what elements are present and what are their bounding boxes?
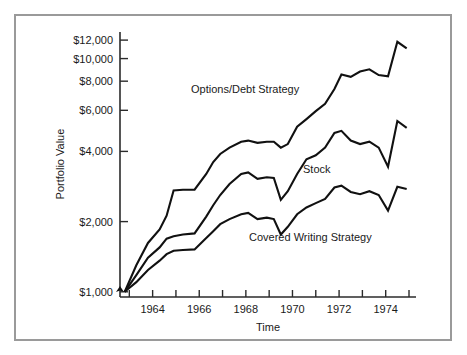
y-tick-label: $8,000 xyxy=(79,75,113,87)
figure-frame: $1,000$2,000$4,000$6,000$8,000$10,000$12… xyxy=(14,14,452,341)
y-tick-label: $6,000 xyxy=(79,104,113,116)
y-tick-label: $4,000 xyxy=(79,145,113,157)
x-tick-label: 1970 xyxy=(280,303,304,315)
series-label-options-debt: Options/Debt Strategy xyxy=(191,83,300,95)
y-tick-label: $12,000 xyxy=(73,34,113,46)
x-tick-label: 1972 xyxy=(327,303,351,315)
y-tick-label: $10,000 xyxy=(73,53,113,65)
x-axis-tick-labels: 196419661968197019721974 xyxy=(140,303,398,315)
data-series-line-1 xyxy=(125,121,407,292)
y-axis-title: Portfolio Value xyxy=(54,129,66,200)
y-tick-label: $1,000 xyxy=(79,286,113,298)
data-series-group xyxy=(125,42,407,292)
x-tick-label: 1966 xyxy=(187,303,211,315)
y-tick-label: $2,000 xyxy=(79,216,113,228)
y-axis-ticks xyxy=(120,40,128,292)
y-axis-tick-labels: $1,000$2,000$4,000$6,000$8,000$10,000$12… xyxy=(73,34,113,298)
x-tick-label: 1968 xyxy=(234,303,258,315)
series-label-stock: Stock xyxy=(303,163,331,175)
x-tick-label: 1974 xyxy=(373,303,397,315)
portfolio-value-line-chart: $1,000$2,000$4,000$6,000$8,000$10,000$12… xyxy=(16,16,450,339)
x-axis-title: Time xyxy=(256,321,280,333)
x-axis-ticks xyxy=(129,290,409,297)
series-label-covered-writing: Covered Writing Strategy xyxy=(249,231,372,243)
x-tick-label: 1964 xyxy=(140,303,164,315)
